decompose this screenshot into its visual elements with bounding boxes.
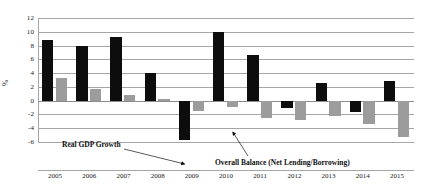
x-tick-2010: 2010	[209, 172, 243, 180]
x-tick-2007: 2007	[106, 172, 140, 180]
y-tick--4: -4	[0, 124, 34, 132]
x-tick-2006: 2006	[72, 172, 106, 180]
y-tick-8: 8	[0, 42, 34, 50]
bar-group-2009	[175, 18, 209, 142]
bar-group-2007	[106, 18, 140, 142]
bar-gdp-2014	[350, 101, 361, 113]
bar-balance-2012	[295, 101, 306, 120]
bar-group-2011	[243, 18, 277, 142]
chart-container: % 121086420-2-4-6 2005200620072008200920…	[0, 0, 426, 195]
bar-group-2012	[277, 18, 311, 142]
bar-group-2010	[209, 18, 243, 142]
bar-balance-2015	[398, 101, 409, 138]
annotation-real-gdp-growth: Real GDP Growth	[62, 140, 121, 149]
y-tick-10: 10	[0, 28, 34, 36]
y-axis-tick-labels: 121086420-2-4-6	[0, 18, 34, 142]
x-tick-2005: 2005	[38, 172, 72, 180]
x-tick-2012: 2012	[277, 172, 311, 180]
leader-line-gdp	[124, 149, 185, 164]
bar-group-2006	[72, 18, 106, 142]
bar-gdp-2015	[384, 81, 395, 100]
bar-balance-2007	[124, 95, 135, 101]
y-tick-2: 2	[0, 83, 34, 91]
bar-gdp-2005	[42, 40, 53, 101]
bar-balance-2014	[363, 101, 374, 124]
bar-balance-2005	[56, 78, 67, 101]
y-tick--2: -2	[0, 110, 34, 118]
bar-group-2013	[312, 18, 346, 142]
x-tick-2011: 2011	[243, 172, 277, 180]
bar-balance-2008	[158, 99, 169, 101]
bar-gdp-2006	[76, 46, 87, 101]
x-tick-2013: 2013	[312, 172, 346, 180]
bar-balance-2011	[261, 101, 272, 118]
y-tick--6: -6	[0, 138, 34, 146]
x-axis-tick-labels: 2005200620072008200920102011201220132014…	[38, 172, 414, 180]
y-tick-6: 6	[0, 55, 34, 63]
bar-group-2015	[380, 18, 414, 142]
x-tick-2009: 2009	[175, 172, 209, 180]
bar-balance-2006	[90, 89, 101, 101]
x-axis-line	[38, 170, 414, 171]
y-tick-12: 12	[0, 14, 34, 22]
bar-gdp-2008	[145, 73, 156, 101]
bar-balance-2009	[193, 101, 204, 111]
bar-gdp-2007	[110, 37, 121, 101]
bar-group-2005	[38, 18, 72, 142]
y-tick-0: 0	[0, 97, 34, 105]
x-tick-2014: 2014	[346, 172, 380, 180]
bar-gdp-2011	[247, 55, 258, 101]
x-tick-2015: 2015	[380, 172, 414, 180]
x-tick-2008: 2008	[141, 172, 175, 180]
bar-balance-2010	[227, 101, 238, 107]
bar-group-2014	[346, 18, 380, 142]
bar-balance-2013	[329, 101, 340, 116]
annotation-overall-balance: Overall Balance (Net Lending/Borrowing)	[215, 158, 350, 167]
bar-groups	[38, 18, 414, 142]
bar-gdp-2010	[213, 32, 224, 101]
bar-gdp-2009	[179, 101, 190, 140]
y-tick-4: 4	[0, 69, 34, 77]
bar-group-2008	[141, 18, 175, 142]
bar-gdp-2012	[281, 101, 292, 108]
bar-gdp-2013	[316, 83, 327, 100]
